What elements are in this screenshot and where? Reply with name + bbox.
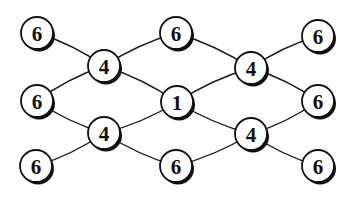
node-n1: 6	[21, 17, 55, 52]
node-label: 4	[246, 123, 257, 147]
node-label: 6	[171, 155, 182, 179]
node-n6: 6	[21, 85, 55, 120]
node-n11: 6	[20, 150, 54, 185]
node-label: 4	[99, 122, 110, 146]
node-label: 4	[246, 57, 257, 81]
node-label: 6	[313, 90, 324, 114]
node-label: 6	[171, 22, 182, 46]
nodes-layer: 6664461644666	[20, 17, 336, 185]
node-label: 6	[313, 155, 324, 179]
node-label: 6	[32, 22, 43, 46]
node-label: 4	[99, 55, 110, 79]
node-n5: 4	[235, 52, 269, 87]
node-label: 6	[313, 25, 324, 49]
node-n7: 1	[161, 86, 195, 121]
node-n9: 4	[88, 117, 122, 152]
node-n4: 4	[88, 50, 122, 85]
graph-diagram: 6664461644666	[0, 0, 354, 199]
node-n3: 6	[302, 20, 336, 55]
node-n2: 6	[160, 17, 194, 52]
node-label: 6	[32, 90, 43, 114]
node-n8: 6	[302, 85, 336, 120]
node-label: 1	[172, 91, 183, 115]
node-n10: 4	[235, 118, 269, 153]
node-label: 6	[31, 155, 42, 179]
node-n13: 6	[302, 150, 336, 185]
node-n12: 6	[160, 150, 194, 185]
